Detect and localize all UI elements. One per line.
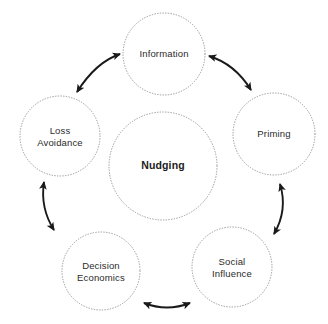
- arrow-decision-economics-loss-avoidance: [43, 182, 54, 230]
- arrow-loss-avoidance-information: [77, 54, 120, 92]
- node-circle-loss-avoidance[interactable]: [20, 96, 100, 176]
- nudging-cycle-diagram: Information Priming Social Influence Dec…: [0, 0, 328, 324]
- node-circle-social-influence[interactable]: [192, 227, 272, 307]
- node-circle-priming[interactable]: [233, 93, 315, 175]
- node-circle-decision-economics[interactable]: [62, 232, 140, 310]
- arrow-social-influence-decision-economics: [144, 303, 190, 308]
- connector-arrow-group: [43, 54, 283, 308]
- arrow-information-priming: [209, 56, 251, 90]
- node-circle-nudging[interactable]: [109, 112, 217, 220]
- diagram-canvas: [0, 0, 328, 324]
- node-circle-information[interactable]: [123, 13, 205, 95]
- arrow-priming-social-influence: [274, 184, 283, 234]
- node-circle-group: [20, 13, 315, 310]
